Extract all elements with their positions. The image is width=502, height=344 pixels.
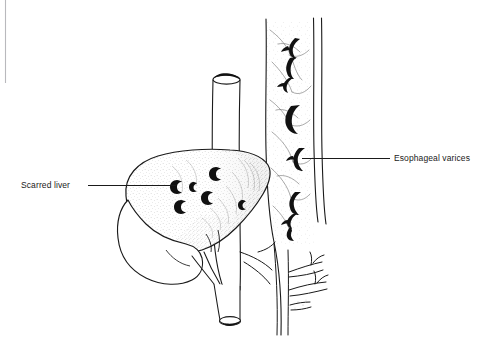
illustration-canvas (0, 0, 502, 344)
label-esophageal-varices: Esophageal varices (394, 153, 470, 164)
vessel-stump-lower (214, 284, 241, 326)
vein-wall-right-inner (322, 18, 327, 224)
vein-wall-right-outer (314, 18, 319, 222)
label-scarred-liver: Scarred liver (21, 180, 70, 191)
portal-connection-vessels (240, 242, 275, 284)
vein-branches-lower (289, 252, 328, 310)
medical-illustration-figure: Scarred liver Esophageal varices (0, 0, 502, 344)
